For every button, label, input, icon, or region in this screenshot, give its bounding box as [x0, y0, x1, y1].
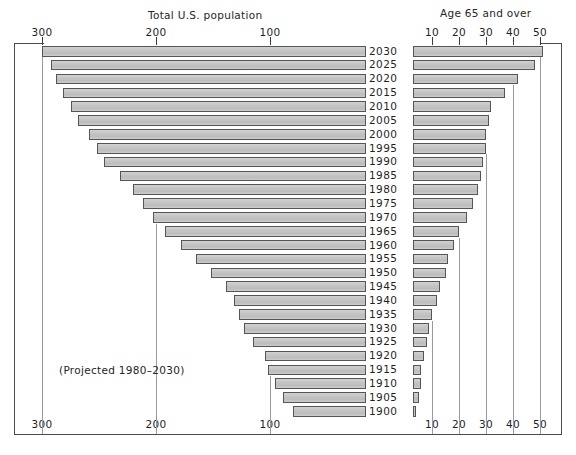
- bar-total-population-1920: [265, 351, 366, 362]
- chart-row: 1920: [0, 349, 576, 363]
- chart-row: 1900: [0, 405, 576, 419]
- bar-age65-1945: [413, 281, 440, 292]
- chart-row: 1935: [0, 308, 576, 322]
- bar-total-population-1985: [120, 171, 366, 182]
- bar-age65-1955: [413, 254, 448, 265]
- year-label-1935: 1935: [369, 308, 409, 321]
- bar-total-population-2020: [56, 74, 366, 85]
- year-label-2030: 2030: [369, 45, 409, 58]
- year-label-2025: 2025: [369, 58, 409, 71]
- left-panel-title: Total U.S. population: [148, 9, 262, 21]
- chart-row: 2020: [0, 72, 576, 86]
- year-label-1955: 1955: [369, 252, 409, 265]
- bar-total-population-1955: [196, 254, 366, 265]
- chart-row: 2015: [0, 86, 576, 100]
- year-label-1975: 1975: [369, 197, 409, 210]
- year-label-1945: 1945: [369, 280, 409, 293]
- bar-age65-1990: [413, 157, 483, 168]
- chart-row: 1955: [0, 252, 576, 266]
- chart-row: 2025: [0, 58, 576, 72]
- chart-row: 1905: [0, 391, 576, 405]
- bar-age65-1910: [413, 378, 421, 389]
- chart-row: 1910: [0, 377, 576, 391]
- year-label-1915: 1915: [369, 363, 409, 376]
- year-label-1920: 1920: [369, 349, 409, 362]
- chart-row: 1995: [0, 142, 576, 156]
- bar-total-population-1975: [143, 198, 366, 209]
- bar-total-population-2015: [63, 88, 366, 99]
- bar-total-population-2005: [78, 115, 366, 126]
- bar-total-population-1935: [239, 309, 366, 320]
- bar-age65-1960: [413, 240, 454, 251]
- bar-age65-1950: [413, 268, 446, 279]
- bar-age65-1975: [413, 198, 473, 209]
- chart-row: 2005: [0, 114, 576, 128]
- bar-age65-2020: [413, 74, 518, 85]
- year-label-1940: 1940: [369, 294, 409, 307]
- bar-age65-1900: [413, 406, 416, 417]
- year-label-1985: 1985: [369, 169, 409, 182]
- bar-age65-2000: [413, 129, 486, 140]
- chart-row: 1925: [0, 335, 576, 349]
- year-label-1960: 1960: [369, 239, 409, 252]
- year-label-2005: 2005: [369, 114, 409, 127]
- bar-total-population-1930: [244, 323, 366, 334]
- chart-row: 1950: [0, 266, 576, 280]
- chart-row: 1940: [0, 294, 576, 308]
- bar-total-population-2025: [51, 60, 366, 71]
- bar-total-population-1965: [165, 226, 366, 237]
- bar-age65-1935: [413, 309, 432, 320]
- bar-age65-2010: [413, 101, 491, 112]
- bar-age65-2005: [413, 115, 489, 126]
- frame-bottom-axis: [14, 434, 562, 435]
- bar-age65-1995: [413, 143, 486, 154]
- chart-canvas: Total U.S. population Age 65 and over 30…: [0, 0, 576, 455]
- right-panel-title: Age 65 and over: [440, 7, 531, 19]
- year-label-1965: 1965: [369, 225, 409, 238]
- bar-age65-1965: [413, 226, 459, 237]
- bar-total-population-1905: [283, 392, 366, 403]
- year-label-2015: 2015: [369, 86, 409, 99]
- bar-age65-1920: [413, 351, 424, 362]
- year-label-2020: 2020: [369, 72, 409, 85]
- bar-total-population-1940: [234, 295, 366, 306]
- bar-age65-1905: [413, 392, 419, 403]
- bar-total-population-1995: [97, 143, 366, 154]
- bar-total-population-2000: [89, 129, 366, 140]
- year-label-1995: 1995: [369, 142, 409, 155]
- year-label-1990: 1990: [369, 155, 409, 168]
- bar-age65-2025: [413, 60, 535, 71]
- year-label-1980: 1980: [369, 183, 409, 196]
- year-label-1910: 1910: [369, 377, 409, 390]
- bar-total-population-1980: [133, 184, 366, 195]
- chart-row: 1980: [0, 183, 576, 197]
- bar-total-population-2030: [42, 46, 366, 57]
- bar-age65-1930: [413, 323, 429, 334]
- chart-row: 2010: [0, 100, 576, 114]
- year-label-1970: 1970: [369, 211, 409, 224]
- bar-age65-1925: [413, 337, 427, 348]
- year-label-2000: 2000: [369, 128, 409, 141]
- chart-row: 1970: [0, 211, 576, 225]
- year-label-1925: 1925: [369, 335, 409, 348]
- projection-note: (Projected 1980–2030): [59, 364, 185, 376]
- year-label-2010: 2010: [369, 100, 409, 113]
- bar-total-population-1910: [275, 378, 366, 389]
- year-label-1950: 1950: [369, 266, 409, 279]
- bar-age65-1980: [413, 184, 478, 195]
- bar-total-population-1925: [253, 337, 366, 348]
- bar-total-population-1960: [181, 240, 366, 251]
- bar-total-population-1970: [153, 212, 366, 223]
- chart-row: 1965: [0, 225, 576, 239]
- chart-row: 2030: [0, 45, 576, 59]
- bar-total-population-1900: [293, 406, 366, 417]
- bar-age65-1940: [413, 295, 437, 306]
- bar-total-population-2010: [71, 101, 367, 112]
- bar-total-population-1990: [104, 157, 366, 168]
- chart-row: 1990: [0, 155, 576, 169]
- chart-row: 1945: [0, 280, 576, 294]
- bar-age65-1915: [413, 365, 421, 376]
- bar-age65-2015: [413, 88, 505, 99]
- chart-row: 1930: [0, 322, 576, 336]
- chart-row: 1985: [0, 169, 576, 183]
